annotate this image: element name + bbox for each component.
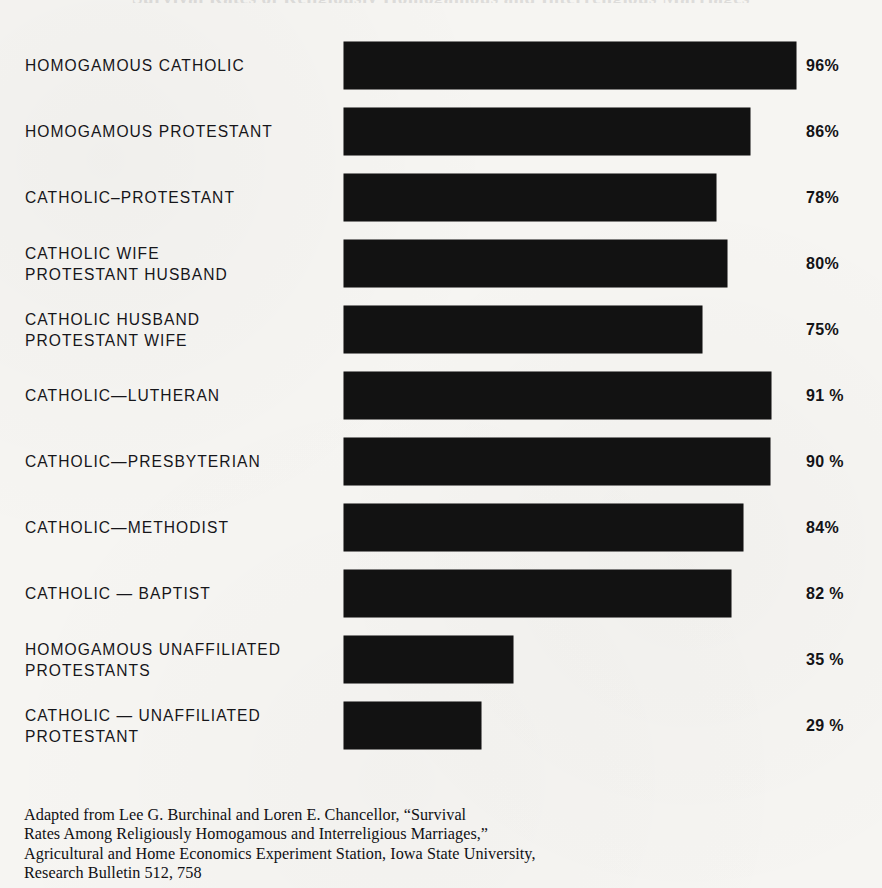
bar: [344, 42, 796, 89]
bar-row-label-line1: HOMOGAMOUS PROTESTANT: [25, 122, 335, 142]
bar: [344, 438, 770, 485]
horizontal-bar-chart: HOMOGAMOUS CATHOLIC96%HOMOGAMOUS PROTEST…: [0, 0, 882, 812]
bar-track: [344, 495, 844, 561]
bar-track: [344, 165, 844, 231]
bar-row-label: CATHOLIC — UNAFFILIATEDPROTESTANT: [25, 693, 335, 759]
source-line-1: Adapted from Lee G. Burchinal and Loren …: [24, 806, 864, 825]
bar-row-label: HOMOGAMOUS CATHOLIC: [25, 33, 335, 99]
bar-value-label: 82 %: [806, 561, 844, 627]
bar-row-label-line1: CATHOLIC–PROTESTANT: [25, 188, 335, 208]
source-line-4: Research Bulletin 512, 758: [24, 864, 864, 883]
bar-row: HOMOGAMOUS CATHOLIC96%: [0, 33, 882, 99]
bar-row-label: CATHOLIC–PROTESTANT: [25, 165, 335, 231]
bar: [344, 504, 743, 551]
bar-row-label-line1: HOMOGAMOUS UNAFFILIATED: [25, 640, 335, 660]
bar-row: CATHOLIC–PROTESTANT78%: [0, 165, 882, 231]
bar-value-label: 75%: [806, 297, 839, 363]
source-line-2: Rates Among Religiously Homogamous and I…: [24, 825, 864, 844]
bar-track: [344, 561, 844, 627]
bar-row-label-line1: CATHOLIC—PRESBYTERIAN: [25, 452, 335, 472]
bar-row-label: HOMOGAMOUS PROTESTANT: [25, 99, 335, 165]
bar-value-label: 96%: [806, 33, 839, 99]
bar-row-label-line1: CATHOLIC—LUTHERAN: [25, 386, 335, 406]
bar-row-label-line2: PROTESTANT WIFE: [25, 331, 335, 351]
bar-track: [344, 693, 844, 759]
bar: [344, 702, 481, 749]
bar-row-label-line1: HOMOGAMOUS CATHOLIC: [25, 56, 335, 76]
bar-row: CATHOLIC WIFEPROTESTANT HUSBAND80%: [0, 231, 882, 297]
bar-value-label: 35 %: [806, 627, 844, 693]
bar-row: CATHOLIC HUSBANDPROTESTANT WIFE75%: [0, 297, 882, 363]
chart-page: Survival Rates of Religiously Homogamous…: [0, 0, 882, 888]
bar-track: [344, 297, 844, 363]
bar: [344, 108, 750, 155]
source-citation: Adapted from Lee G. Burchinal and Loren …: [24, 806, 864, 884]
source-line-3: Agricultural and Home Economics Experime…: [24, 845, 864, 864]
bar-row: HOMOGAMOUS PROTESTANT86%: [0, 99, 882, 165]
bar-row-label: CATHOLIC HUSBANDPROTESTANT WIFE: [25, 297, 335, 363]
bar-row-label-line1: CATHOLIC — BAPTIST: [25, 584, 335, 604]
bar-row-label: HOMOGAMOUS UNAFFILIATEDPROTESTANTS: [25, 627, 335, 693]
bar-value-label: 80%: [806, 231, 839, 297]
bar-row-label-line2: PROTESTANT: [25, 727, 335, 747]
bar: [344, 636, 513, 683]
bar-row-label: CATHOLIC — BAPTIST: [25, 561, 335, 627]
bar-row-label-line1: CATHOLIC—METHODIST: [25, 518, 335, 538]
bar-value-label: 91 %: [806, 363, 844, 429]
bar-row: HOMOGAMOUS UNAFFILIATEDPROTESTANTS35 %: [0, 627, 882, 693]
bar-value-label: 86%: [806, 99, 839, 165]
bar-row: CATHOLIC—METHODIST84%: [0, 495, 882, 561]
bar-row-label: CATHOLIC—METHODIST: [25, 495, 335, 561]
bar-row-label-line2: PROTESTANT HUSBAND: [25, 265, 335, 285]
bar-row: CATHOLIC—LUTHERAN91 %: [0, 363, 882, 429]
bar-track: [344, 627, 844, 693]
bar-row: CATHOLIC—PRESBYTERIAN90 %: [0, 429, 882, 495]
bar-row-label-line2: PROTESTANTS: [25, 661, 335, 681]
bar-row-label-line1: CATHOLIC HUSBAND: [25, 310, 335, 330]
bar: [344, 306, 702, 353]
bar: [344, 240, 727, 287]
bar-row-label-line1: CATHOLIC — UNAFFILIATED: [25, 706, 335, 726]
bar-value-label: 84%: [806, 495, 839, 561]
bar-value-label: 78%: [806, 165, 839, 231]
bar-track: [344, 231, 844, 297]
bar: [344, 570, 731, 617]
bar: [344, 372, 771, 419]
bar-track: [344, 33, 844, 99]
bar-row: CATHOLIC — BAPTIST82 %: [0, 561, 882, 627]
bar-row-label: CATHOLIC WIFEPROTESTANT HUSBAND: [25, 231, 335, 297]
bar-value-label: 90 %: [806, 429, 844, 495]
bar-row-label: CATHOLIC—PRESBYTERIAN: [25, 429, 335, 495]
bar-value-label: 29 %: [806, 693, 844, 759]
bar: [344, 174, 716, 221]
bar-row-label-line1: CATHOLIC WIFE: [25, 244, 335, 264]
bar-track: [344, 429, 844, 495]
bar-track: [344, 363, 844, 429]
bar-row: CATHOLIC — UNAFFILIATEDPROTESTANT29 %: [0, 693, 882, 759]
bar-track: [344, 99, 844, 165]
bar-row-label: CATHOLIC—LUTHERAN: [25, 363, 335, 429]
